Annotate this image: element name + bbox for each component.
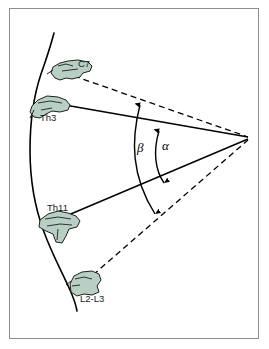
beta-angle-arc bbox=[134, 105, 155, 214]
beta-reference-lines bbox=[74, 76, 248, 288]
angle-label-beta: β bbox=[136, 140, 144, 155]
vertebra-label-l2-l3: L2-L3 bbox=[80, 293, 104, 304]
vertebra-label-th11: Th11 bbox=[47, 202, 68, 213]
alpha-reference-lines bbox=[40, 101, 248, 227]
angle-label-alpha: α bbox=[162, 138, 170, 153]
figure-root: C7 Th3 Th11 L2-L3 β α bbox=[0, 0, 269, 349]
spine-angle-diagram: C7 Th3 Th11 L2-L3 β α bbox=[0, 0, 269, 349]
dashed-line-c7 bbox=[74, 76, 248, 137]
vertebra-marker-th11 bbox=[39, 211, 80, 243]
vertebra-label-c7: C7 bbox=[78, 58, 90, 69]
vertebra-label-th3: Th3 bbox=[40, 112, 56, 123]
dashed-line-l2l3 bbox=[78, 140, 248, 288]
solid-line-th3 bbox=[42, 101, 248, 137]
